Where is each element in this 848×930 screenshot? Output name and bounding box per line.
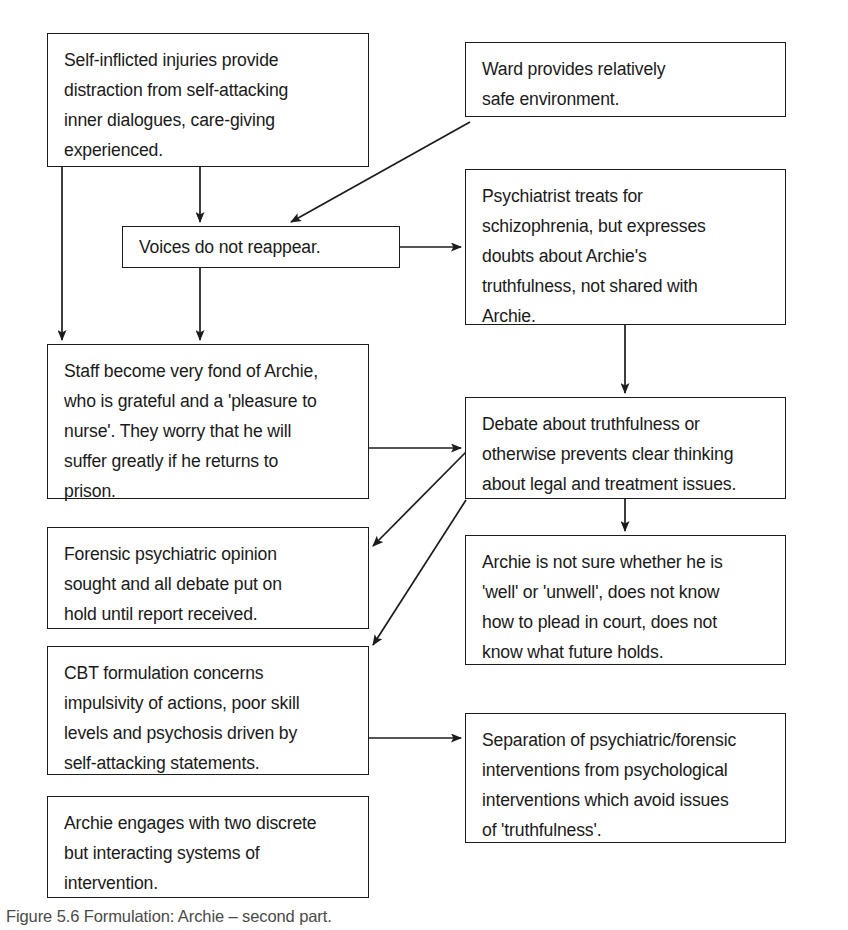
node-text: Psychiatrist treats for schizophrenia, b… [482, 181, 772, 331]
node-ward-safe-environment: Ward provides relatively safe environmen… [465, 42, 786, 117]
node-text: Debate about truthfulness or otherwise p… [482, 409, 772, 499]
node-text: Voices do not reappear. [139, 232, 386, 262]
connector-debate-to-cbt [373, 500, 466, 645]
node-forensic-opinion-sought: Forensic psychiatric opinion sought and … [47, 527, 369, 629]
formulation-flowchart: Self-inflicted injuries provide distract… [0, 0, 848, 930]
node-archie-not-sure-whether-well: Archie is not sure whether he is 'well' … [465, 535, 786, 665]
node-text: Ward provides relatively safe environmen… [482, 54, 772, 114]
node-separation-of-interventions: Separation of psychiatric/forensic inter… [465, 713, 786, 843]
node-voices-do-not-reappear: Voices do not reappear. [122, 226, 400, 268]
node-text: Forensic psychiatric opinion sought and … [64, 539, 355, 629]
node-text: Staff become very fond of Archie, who is… [64, 356, 355, 506]
node-cbt-formulation-concerns: CBT formulation concerns impulsivity of … [47, 646, 369, 775]
node-text: Separation of psychiatric/forensic inter… [482, 725, 772, 845]
node-debate-about-truthfulness: Debate about truthfulness or otherwise p… [465, 397, 786, 499]
node-text: Archie is not sure whether he is 'well' … [482, 547, 772, 667]
node-archie-engages-two-systems: Archie engages with two discrete but int… [47, 796, 369, 898]
node-text: Self-inflicted injuries provide distract… [64, 45, 355, 165]
node-staff-fond-of-archie: Staff become very fond of Archie, who is… [47, 344, 369, 499]
node-text: Archie engages with two discrete but int… [64, 808, 355, 898]
figure-caption: Figure 5.6 Formulation: Archie – second … [6, 905, 332, 927]
node-text: CBT formulation concerns impulsivity of … [64, 658, 355, 778]
connector-debate-to-forensic [373, 452, 466, 546]
node-psychiatrist-treats-schizophrenia: Psychiatrist treats for schizophrenia, b… [465, 169, 786, 325]
node-self-inflicted-injuries: Self-inflicted injuries provide distract… [47, 33, 369, 167]
